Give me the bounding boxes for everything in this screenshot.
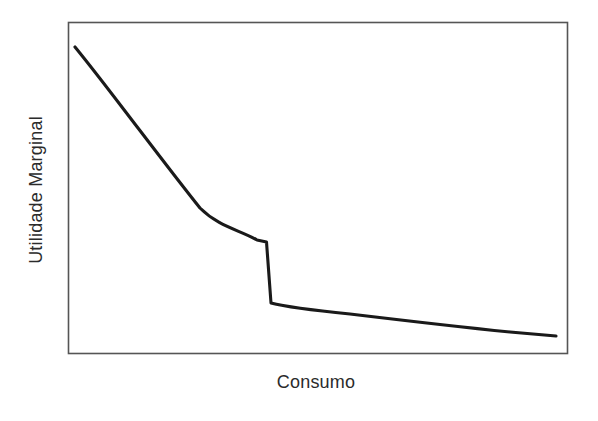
y-axis-label: Utilidade Marginal xyxy=(26,116,46,264)
x-axis-label: Consumo xyxy=(277,372,355,392)
marginal-utility-chart: Utilidade Marginal Consumo xyxy=(0,0,598,421)
chart-figure: Utilidade Marginal Consumo xyxy=(0,0,598,421)
